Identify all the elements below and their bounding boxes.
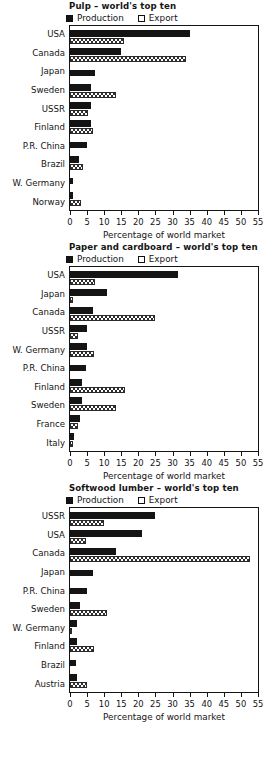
legend-item-export: Export <box>138 494 178 507</box>
x-axis-tick <box>104 211 105 215</box>
category-label: Finland <box>0 637 65 655</box>
bar-production <box>70 415 80 422</box>
bar-production <box>70 660 76 667</box>
plot-row: USACanadaJapanSwedenUSSRFinlandP.R. Chin… <box>0 25 280 211</box>
plot-area <box>69 25 259 211</box>
x-axis-title: Percentage of world market <box>69 470 259 482</box>
x-axis-tick <box>258 693 259 697</box>
bar-production <box>70 102 91 109</box>
category-axis: USAJapanCanadaUSSRW. GermanyP.R. ChinaFi… <box>0 266 69 452</box>
category-label: Sweden <box>0 600 65 618</box>
x-axis-tick <box>173 452 174 456</box>
x-axis-tick <box>207 211 208 215</box>
x-axis-tick-label: 10 <box>99 699 110 710</box>
bar-group <box>70 82 258 100</box>
x-axis-tick-label: 55 <box>253 458 264 469</box>
category-label: Norway <box>0 193 65 211</box>
x-axis-tick <box>138 693 139 697</box>
bar-production <box>70 343 87 350</box>
bar-group <box>70 154 258 172</box>
x-axis-tick-label: 35 <box>184 699 195 710</box>
legend-label-export: Export <box>149 12 178 25</box>
x-axis-tick-label: 40 <box>201 217 212 228</box>
figure-three-bar-charts: Pulp – world's top ten Production Export… <box>0 0 280 776</box>
bar-production <box>70 638 77 645</box>
legend-item-export: Export <box>138 253 178 266</box>
x-axis-tick-label: 20 <box>133 217 144 228</box>
x-axis-tick-label: 10 <box>99 217 110 228</box>
bar-production <box>70 588 87 595</box>
x-axis-tick-label: 45 <box>218 217 229 228</box>
legend-label-export: Export <box>149 253 178 266</box>
bar-production <box>70 530 142 537</box>
bar-group <box>70 618 258 636</box>
bar-group <box>70 582 258 600</box>
x-axis-tick <box>87 452 88 456</box>
bar-export <box>70 56 186 63</box>
bar-group <box>70 672 258 690</box>
bar-group <box>70 269 258 287</box>
bar-export <box>70 610 107 617</box>
category-label: France <box>0 415 65 433</box>
bar-export <box>70 333 78 340</box>
x-label-row: 0510152025303540455055 <box>0 217 280 229</box>
category-label: USA <box>0 266 65 284</box>
x-axis-tick-labels: 0510152025303540455055 <box>69 699 259 711</box>
bar-group <box>70 118 258 136</box>
bar-export <box>70 164 83 171</box>
bar-export <box>70 297 73 304</box>
x-axis-tick-labels: 0510152025303540455055 <box>69 458 259 470</box>
bar-group <box>70 341 258 359</box>
x-axis-tick-label: 30 <box>167 458 178 469</box>
bar-export <box>70 315 155 322</box>
chart-title: Softwood lumber – world's top ten <box>0 482 280 494</box>
x-label-row: 0510152025303540455055 <box>0 458 280 470</box>
x-axis-tick-label: 5 <box>84 699 89 710</box>
export-swatch-icon <box>138 497 145 504</box>
bar-production <box>70 192 73 199</box>
bar-production <box>70 325 87 332</box>
category-label: USSR <box>0 322 65 340</box>
x-axis-tick-label: 25 <box>150 458 161 469</box>
bar-production <box>70 548 116 555</box>
category-label: Sweden <box>0 81 65 99</box>
x-axis-tick-label: 15 <box>116 217 127 228</box>
x-axis-tick-labels: 0510152025303540455055 <box>69 217 259 229</box>
x-axis-tick-label: 55 <box>253 699 264 710</box>
bar-production <box>70 30 190 37</box>
x-axis-title: Percentage of world market <box>69 711 259 723</box>
x-axis-tick-label: 5 <box>84 458 89 469</box>
category-label: Italy <box>0 434 65 452</box>
category-label: Japan <box>0 62 65 80</box>
bar-group <box>70 413 258 431</box>
x-axis-tick-label: 30 <box>167 699 178 710</box>
bar-production <box>70 674 77 681</box>
bar-export <box>70 520 104 527</box>
legend-label-production: Production <box>77 253 124 266</box>
category-label: Austria <box>0 675 65 693</box>
category-label: Canada <box>0 544 65 562</box>
bar-group <box>70 359 258 377</box>
bar-group <box>70 510 258 528</box>
bar-production <box>70 365 86 372</box>
x-axis-tick-label: 40 <box>201 458 212 469</box>
export-swatch-icon <box>138 15 145 22</box>
x-axis-tick-label: 35 <box>184 217 195 228</box>
x-axis-tick-label: 15 <box>116 699 127 710</box>
legend-label-production: Production <box>77 494 124 507</box>
category-label: W. Germany <box>0 619 65 637</box>
category-label: W. Germany <box>0 174 65 192</box>
legend-label-export: Export <box>149 494 178 507</box>
production-swatch-icon <box>66 256 73 263</box>
bar-group <box>70 64 258 82</box>
category-label: USSR <box>0 100 65 118</box>
category-label: P.R. China <box>0 582 65 600</box>
bar-group <box>70 528 258 546</box>
category-axis: USSRUSACanadaJapanP.R. ChinaSwedenW. Ger… <box>0 507 69 693</box>
x-axis-tick <box>258 211 259 215</box>
x-axis-tick <box>121 211 122 215</box>
category-label: USSR <box>0 507 65 525</box>
bar-export <box>70 279 95 286</box>
bar-export <box>70 351 94 358</box>
x-axis-tick <box>241 211 242 215</box>
